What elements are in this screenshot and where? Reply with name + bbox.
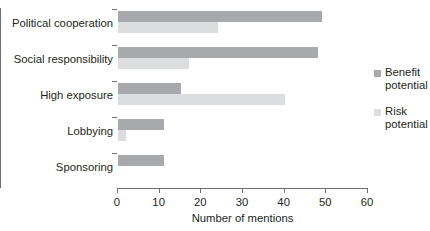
bar-risk-potential[interactable] — [118, 22, 218, 33]
bar-risk-potential[interactable] — [118, 94, 285, 105]
category-label: Lobbying — [0, 124, 113, 138]
bar-benefit-potential[interactable] — [118, 155, 164, 166]
bar-benefit-potential[interactable] — [118, 83, 181, 94]
chart-legend: Benefit potential Risk potential — [374, 66, 430, 144]
legend-label-benefit-line1: Benefit — [385, 66, 430, 79]
y-axis-tick — [112, 9, 117, 10]
x-axis-tick-label: 20 — [180, 195, 220, 209]
x-axis-tick — [159, 188, 160, 193]
x-axis-tick-label: 60 — [347, 195, 387, 209]
category-label: High exposure — [0, 88, 113, 102]
chart-category-row: Sponsoring — [0, 152, 430, 188]
y-axis-tick — [112, 117, 117, 118]
bar-group — [118, 83, 285, 105]
bar-risk-potential[interactable] — [118, 130, 126, 141]
x-axis-tick-label: 50 — [305, 195, 345, 209]
y-axis-tick — [112, 81, 117, 82]
category-label: Social responsibility — [0, 52, 113, 66]
bar-group — [118, 11, 322, 33]
bar-benefit-potential[interactable] — [118, 11, 322, 22]
chart-category-row: High exposure — [0, 80, 430, 116]
x-axis-tick — [117, 188, 118, 193]
bar-risk-potential[interactable] — [118, 58, 189, 69]
legend-swatch-icon-benefit — [374, 70, 381, 77]
legend-item-risk-potential[interactable]: Risk potential — [374, 105, 430, 131]
bar-chart: Political cooperationSocial responsibili… — [0, 0, 430, 231]
bar-group — [118, 47, 318, 69]
x-axis-tick — [367, 188, 368, 193]
chart-category-row: Social responsibility — [0, 44, 430, 80]
category-label: Sponsoring — [0, 160, 113, 174]
x-axis-tick — [242, 188, 243, 193]
x-axis-tick — [325, 188, 326, 193]
bar-benefit-potential[interactable] — [118, 119, 164, 130]
legend-item-benefit-potential[interactable]: Benefit potential — [374, 66, 430, 92]
x-axis-tick-label: 0 — [97, 195, 137, 209]
x-axis-title: Number of mentions — [117, 211, 368, 225]
x-axis-tick-label: 40 — [264, 195, 304, 209]
x-axis-tick-label: 30 — [222, 195, 262, 209]
legend-swatch-icon-risk — [374, 109, 381, 116]
x-axis-tick — [200, 188, 201, 193]
x-axis-tick — [284, 188, 285, 193]
y-axis-tick — [112, 45, 117, 46]
x-axis-tick-label: 10 — [139, 195, 179, 209]
chart-category-row: Lobbying — [0, 116, 430, 152]
chart-category-row: Political cooperation — [0, 8, 430, 44]
bar-group — [118, 155, 164, 177]
y-axis-tick — [112, 153, 117, 154]
bar-group — [118, 119, 164, 141]
legend-label-risk-line2: potential — [385, 118, 430, 131]
legend-label-risk-line1: Risk — [385, 105, 430, 118]
legend-label-benefit-line2: potential — [385, 79, 430, 92]
bar-benefit-potential[interactable] — [118, 47, 318, 58]
category-label: Political cooperation — [0, 16, 113, 30]
